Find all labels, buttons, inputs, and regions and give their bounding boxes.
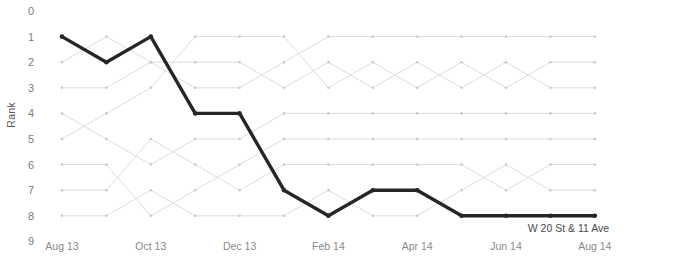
data-point-marker: [460, 61, 463, 64]
data-point-marker: [282, 188, 287, 193]
data-point-marker: [283, 112, 286, 115]
data-point-marker: [505, 163, 508, 166]
data-point-marker: [194, 215, 197, 218]
data-point-marker: [105, 138, 108, 141]
data-point-marker: [105, 189, 108, 192]
muted-series-group: [61, 35, 596, 217]
data-point-marker: [416, 138, 419, 141]
data-point-marker: [327, 189, 330, 192]
data-point-marker: [194, 61, 197, 64]
data-point-marker: [372, 61, 375, 64]
data-point-marker: [549, 61, 552, 64]
data-point-marker: [105, 163, 108, 166]
data-point-marker: [283, 61, 286, 64]
data-point-marker: [194, 35, 197, 38]
data-point-marker: [504, 214, 509, 219]
data-point-marker: [371, 188, 376, 193]
data-point-marker: [594, 35, 597, 38]
x-tick-label: Aug 13: [45, 240, 78, 252]
data-point-marker: [327, 112, 330, 115]
data-point-marker: [283, 87, 286, 90]
plot-area: [0, 0, 685, 259]
data-point-marker: [105, 112, 108, 115]
data-point-marker: [594, 138, 597, 141]
data-point-marker: [460, 138, 463, 141]
data-point-marker: [327, 35, 330, 38]
data-point-marker: [505, 87, 508, 90]
data-point-marker: [460, 163, 463, 166]
data-point-marker: [327, 87, 330, 90]
data-point-marker: [150, 189, 153, 192]
data-point-marker: [283, 163, 286, 166]
data-point-marker: [372, 215, 375, 218]
data-point-marker: [505, 138, 508, 141]
data-point-marker: [505, 61, 508, 64]
data-point-marker: [593, 214, 598, 219]
data-point-marker: [193, 111, 198, 116]
data-point-marker: [594, 189, 597, 192]
data-point-marker: [372, 138, 375, 141]
data-point-marker: [238, 87, 241, 90]
data-point-marker: [416, 35, 419, 38]
data-point-marker: [61, 215, 64, 218]
data-point-marker: [594, 163, 597, 166]
data-point-marker: [150, 138, 153, 141]
data-point-marker: [327, 138, 330, 141]
data-point-marker: [150, 87, 153, 90]
data-point-marker: [505, 35, 508, 38]
data-point-marker: [238, 61, 241, 64]
data-point-marker: [415, 188, 420, 193]
data-point-marker: [60, 34, 65, 39]
x-tick-label: Apr 14: [402, 240, 433, 252]
data-point-marker: [549, 163, 552, 166]
data-point-marker: [61, 163, 64, 166]
data-point-marker: [549, 35, 552, 38]
data-point-marker: [238, 138, 241, 141]
data-point-marker: [238, 163, 241, 166]
rank-bump-chart: Rank 0123456789 Aug 13Oct 13Dec 13Feb 14…: [0, 0, 685, 259]
data-point-marker: [505, 112, 508, 115]
data-point-marker: [238, 189, 241, 192]
data-point-marker: [194, 87, 197, 90]
data-point-marker: [505, 189, 508, 192]
data-point-marker: [548, 214, 553, 219]
x-tick-label: Jun 14: [490, 240, 522, 252]
data-point-marker: [105, 87, 108, 90]
data-point-marker: [416, 61, 419, 64]
data-point-marker: [237, 111, 242, 116]
data-point-marker: [549, 87, 552, 90]
data-point-marker: [459, 214, 464, 219]
data-point-marker: [594, 61, 597, 64]
data-point-marker: [194, 163, 197, 166]
data-point-marker: [416, 112, 419, 115]
data-point-marker: [283, 215, 286, 218]
data-point-marker: [416, 215, 419, 218]
data-point-marker: [460, 35, 463, 38]
data-point-marker: [238, 35, 241, 38]
data-point-marker: [327, 163, 330, 166]
data-point-marker: [416, 87, 419, 90]
data-point-marker: [594, 87, 597, 90]
data-point-marker: [549, 112, 552, 115]
data-point-marker: [194, 138, 197, 141]
data-point-marker: [283, 35, 286, 38]
data-point-marker: [372, 87, 375, 90]
data-point-marker: [460, 112, 463, 115]
data-point-marker: [149, 34, 154, 39]
data-point-marker: [61, 189, 64, 192]
data-point-marker: [104, 60, 109, 65]
data-point-marker: [549, 189, 552, 192]
x-tick-label: Aug 14: [578, 240, 611, 252]
data-point-marker: [61, 138, 64, 141]
data-point-marker: [549, 138, 552, 141]
series-annotation-label: W 20 St & 11 Ave: [528, 222, 609, 234]
muted-series-line: [62, 139, 595, 216]
data-point-marker: [61, 61, 64, 64]
x-tick-label: Feb 14: [312, 240, 345, 252]
data-point-marker: [61, 87, 64, 90]
data-point-marker: [283, 138, 286, 141]
data-point-marker: [150, 215, 153, 218]
data-point-marker: [194, 189, 197, 192]
x-tick-label: Dec 13: [223, 240, 256, 252]
data-point-marker: [327, 61, 330, 64]
